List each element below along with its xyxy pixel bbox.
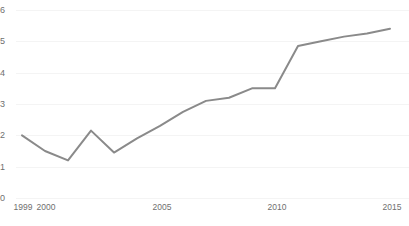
- chart-caption: [0, 219, 409, 226]
- data-line-series-1: [22, 29, 390, 161]
- line-chart: 6 5 4 3 2 1 0 1999 2000 2005 2010 2015: [0, 0, 409, 226]
- plot-area: [0, 0, 409, 226]
